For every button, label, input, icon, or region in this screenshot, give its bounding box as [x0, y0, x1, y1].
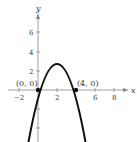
- parabola-chart: x y −2 2 6 8 2 4 6: [0, 0, 137, 142]
- x-axis-arrow-icon: [123, 88, 129, 92]
- point-origin: [36, 88, 40, 92]
- tick-label-x-neg2: −2: [14, 94, 24, 102]
- parabola-curve: [29, 64, 86, 142]
- tick-label-x-6: 6: [93, 94, 98, 102]
- tick-label-y-4: 4: [29, 49, 34, 57]
- y-axis-arrow-icon: [36, 13, 40, 19]
- chart-svg: x y −2 2 6 8 2 4 6: [0, 0, 137, 142]
- tick-label-x-2: 2: [55, 94, 59, 102]
- tick-label-y-2: 2: [29, 68, 33, 76]
- tick-label-x-8: 8: [112, 94, 116, 102]
- point-label-4-0: (4, 0): [77, 79, 99, 88]
- x-axis-label: x: [131, 86, 136, 95]
- y-axis-label: y: [35, 4, 41, 13]
- point-label-origin: (0, 0): [16, 79, 38, 88]
- tick-label-y-6: 6: [29, 29, 34, 37]
- point-4-0: [74, 88, 78, 92]
